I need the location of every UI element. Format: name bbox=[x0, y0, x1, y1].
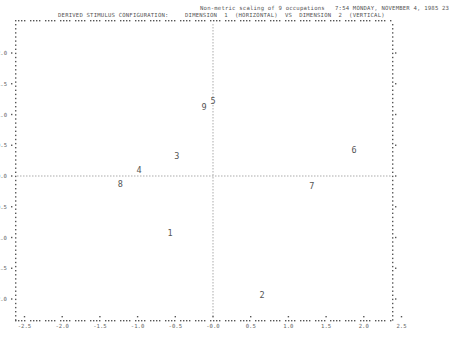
frame-dot bbox=[392, 114, 393, 115]
frame-dot bbox=[33, 320, 34, 321]
frame-dot bbox=[15, 98, 16, 99]
frame-dot bbox=[90, 20, 91, 21]
x-tick-label: -2.5 bbox=[18, 323, 31, 329]
frame-dot bbox=[150, 20, 151, 21]
frame-dot bbox=[369, 320, 370, 321]
frame-dot bbox=[392, 209, 393, 210]
frame-dot bbox=[375, 320, 376, 321]
frame-dot bbox=[15, 139, 16, 140]
x-tick-label: 2.5 bbox=[396, 323, 406, 329]
frame-dot bbox=[15, 81, 16, 82]
frame-dot bbox=[15, 77, 16, 78]
frame-dot bbox=[249, 320, 250, 321]
frame-dot bbox=[210, 320, 211, 321]
frame-dot bbox=[330, 20, 331, 21]
frame-dot bbox=[392, 291, 393, 292]
frame-dot bbox=[392, 98, 393, 99]
frame-dot bbox=[171, 20, 172, 21]
frame-dot bbox=[48, 320, 49, 321]
frame-dot bbox=[138, 320, 139, 321]
frame-dot bbox=[189, 20, 190, 21]
frame-dot bbox=[261, 20, 262, 21]
frame-dot bbox=[390, 320, 391, 321]
frame-dot bbox=[392, 172, 393, 173]
frame-dot bbox=[159, 20, 160, 21]
frame-dot bbox=[21, 320, 22, 321]
frame-dot bbox=[54, 320, 55, 321]
y-tick-label: -1.0 bbox=[0, 235, 7, 241]
y-tick bbox=[11, 237, 12, 238]
y-tick-label: 2.0 bbox=[0, 50, 7, 56]
frame-dot bbox=[135, 20, 136, 21]
frame-dot bbox=[291, 320, 292, 321]
frame-dot bbox=[108, 320, 109, 321]
frame-dot bbox=[392, 188, 393, 189]
frame-dot bbox=[15, 131, 16, 132]
y-tick-label: 1.5 bbox=[0, 81, 7, 87]
frame-dot bbox=[392, 86, 393, 87]
frame-dot bbox=[306, 320, 307, 321]
frame-dot bbox=[369, 20, 370, 21]
frame-dot bbox=[150, 320, 151, 321]
frame-dot bbox=[15, 36, 16, 37]
frame-dot bbox=[141, 320, 142, 321]
frame-dot bbox=[392, 106, 393, 107]
frame-dot bbox=[36, 320, 37, 321]
frame-dot bbox=[195, 320, 196, 321]
frame-dot bbox=[15, 143, 16, 144]
frame-dot bbox=[225, 20, 226, 21]
frame-dot bbox=[345, 320, 346, 321]
frame-dot bbox=[15, 250, 16, 251]
frame-dot bbox=[69, 20, 70, 21]
frame-dot bbox=[15, 315, 16, 316]
frame-dot bbox=[392, 319, 393, 320]
frame-dot bbox=[392, 241, 393, 242]
frame-dot bbox=[15, 159, 16, 160]
frame-dot bbox=[120, 320, 121, 321]
frame-dot bbox=[303, 320, 304, 321]
frame-dot bbox=[114, 20, 115, 21]
y-tick-label: -0.0 bbox=[0, 173, 7, 179]
x-tick-label: 0.5 bbox=[246, 323, 256, 329]
frame-dot bbox=[114, 320, 115, 321]
frame-dot bbox=[15, 262, 16, 263]
frame-dot bbox=[15, 204, 16, 205]
frame-dot bbox=[392, 90, 393, 91]
frame-dot bbox=[15, 221, 16, 222]
frame-dot bbox=[392, 258, 393, 259]
x-tick-label: -1.5 bbox=[93, 323, 106, 329]
frame-dot bbox=[392, 299, 393, 300]
frame-dot bbox=[246, 320, 247, 321]
frame-dot bbox=[264, 20, 265, 21]
frame-dot bbox=[390, 20, 391, 21]
frame-dot bbox=[15, 241, 16, 242]
frame-dot bbox=[249, 20, 250, 21]
frame-dot bbox=[198, 20, 199, 21]
data-point-label: 7 bbox=[309, 181, 314, 191]
frame-dot bbox=[336, 320, 337, 321]
frame-dot bbox=[15, 135, 16, 136]
frame-dot bbox=[392, 213, 393, 214]
frame-dot bbox=[392, 217, 393, 218]
frame-dot bbox=[392, 28, 393, 29]
frame-dot bbox=[15, 229, 16, 230]
frame-dot bbox=[15, 311, 16, 312]
frame-dot bbox=[279, 320, 280, 321]
frame-dot bbox=[392, 204, 393, 205]
frame-dot bbox=[144, 20, 145, 21]
frame-dot bbox=[54, 20, 55, 21]
frame-dot bbox=[30, 20, 31, 21]
y-tick bbox=[11, 298, 12, 299]
frame-dot bbox=[392, 168, 393, 169]
frame-dot bbox=[84, 320, 85, 321]
frame-dot bbox=[392, 282, 393, 283]
frame-dot bbox=[392, 262, 393, 263]
frame-dot bbox=[306, 20, 307, 21]
x-tick bbox=[137, 316, 138, 317]
frame-dot bbox=[15, 86, 16, 87]
y-tick bbox=[395, 268, 396, 269]
frame-dot bbox=[279, 20, 280, 21]
frame-dot bbox=[183, 20, 184, 21]
frame-dot bbox=[183, 320, 184, 321]
x-tick-label: -2.0 bbox=[55, 323, 68, 329]
